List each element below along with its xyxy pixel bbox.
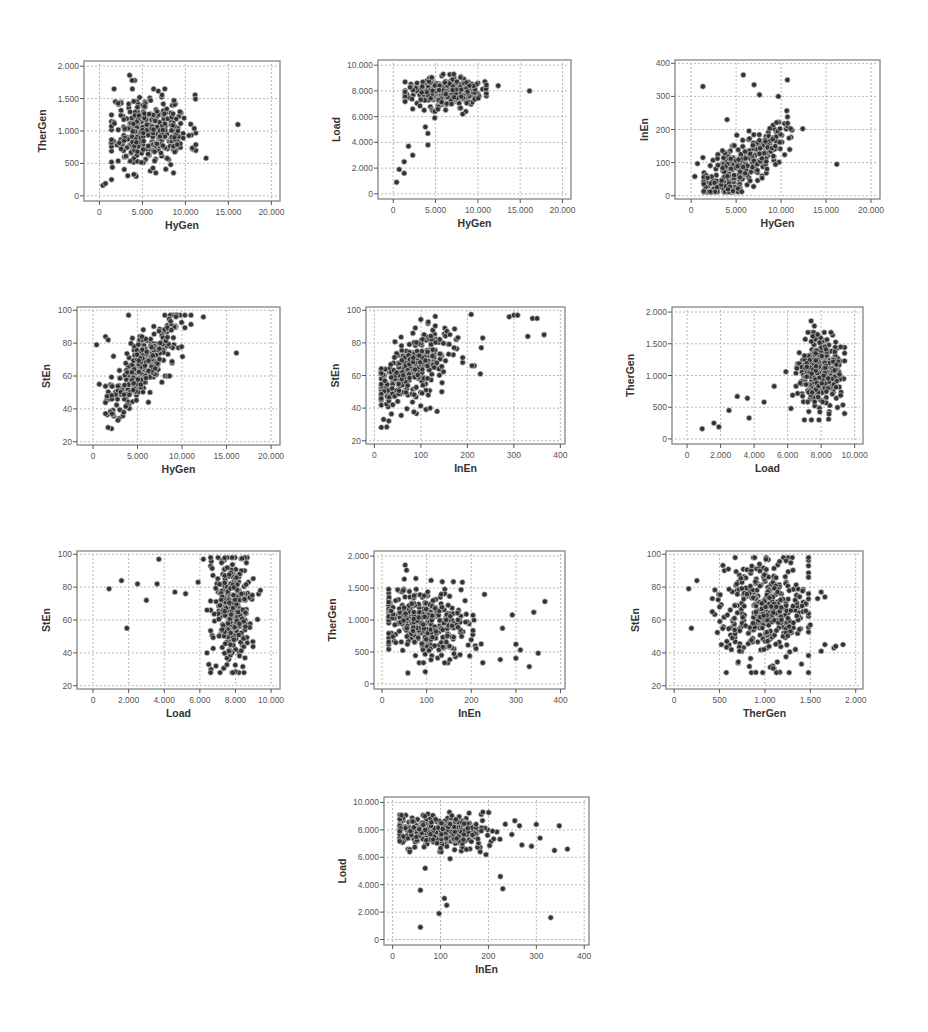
y-tick-label: 2.000	[352, 163, 374, 173]
plot-frame	[666, 551, 863, 689]
y-tick-label: 1.000	[58, 126, 80, 136]
y-tick-label: 60	[63, 371, 73, 381]
scatter-thergen-vs-hygen: 05.00010.00015.00020.00005001.0001.5002.…	[0, 0, 928, 1032]
x-axis-label: HyGen	[162, 463, 196, 475]
x-tick-label: 6.000	[189, 695, 211, 705]
y-axis: 02.0004.0006.0008.00010.000	[353, 797, 384, 944]
grid-lines	[381, 63, 568, 196]
x-axis: 05.00010.00015.00020.000	[391, 199, 576, 215]
x-tick-label: 100	[420, 695, 434, 705]
y-tick-label: 100	[647, 549, 661, 559]
data-points	[692, 72, 839, 194]
x-tick-label: 0	[672, 695, 677, 705]
x-tick-label: 20.000	[258, 207, 284, 217]
y-axis: 20406080100	[347, 305, 366, 445]
x-tick-label: 400	[577, 951, 591, 961]
x-tick-label: 200	[464, 695, 478, 705]
x-tick-label: 10.000	[258, 695, 284, 705]
x-tick-label: 20.000	[858, 205, 884, 215]
x-axis: 02.0004.0006.0008.00010.000	[685, 444, 868, 460]
x-tick-label: 8.000	[225, 695, 247, 705]
x-tick-label: 10.000	[172, 207, 198, 217]
x-tick-label: 0	[391, 205, 396, 215]
y-axis: 20406080100	[58, 549, 77, 690]
x-tick-label: 15.000	[215, 207, 241, 217]
x-tick-label: 300	[529, 951, 543, 961]
grid-lines	[387, 800, 586, 942]
y-tick-label: 100	[656, 158, 670, 168]
x-tick-label: 20.000	[258, 451, 284, 461]
x-tick-label: 10.000	[465, 205, 491, 215]
y-tick-label: 1.500	[646, 339, 668, 349]
grid-lines	[669, 554, 860, 686]
y-axis-label: StEn	[40, 364, 52, 388]
y-tick-label: 100	[347, 305, 361, 315]
y-axis-label: InEn	[638, 118, 650, 141]
scatter-sten-vs-hygen: 05.00010.00015.00020.00020406080100HyGen…	[0, 0, 928, 1032]
y-tick-label: 10.000	[353, 797, 379, 807]
y-tick-label: 4.000	[358, 880, 380, 890]
y-tick-label: 0	[74, 191, 79, 201]
y-tick-label: 60	[63, 615, 73, 625]
x-axis-label: Load	[166, 707, 191, 719]
y-tick-label: 2.000	[348, 551, 370, 561]
grid-lines	[369, 310, 562, 441]
y-tick-label: 10.000	[347, 60, 373, 70]
x-tick-label: 2.000	[845, 695, 867, 705]
x-tick-label: 400	[553, 695, 567, 705]
x-axis-label: InEn	[475, 963, 498, 975]
x-tick-label: 0	[91, 451, 96, 461]
x-tick-label: 1.000	[754, 695, 776, 705]
x-tick-label: 100	[414, 450, 428, 460]
x-tick-label: 10.000	[768, 205, 794, 215]
y-axis: 05001.0001.5002.000	[646, 307, 672, 444]
x-axis: 05.00010.00015.00020.000	[97, 201, 285, 217]
y-tick-label: 80	[63, 582, 73, 592]
scatter-sten-vs-thergen: 05001.0001.5002.00020406080100TherGenStE…	[0, 0, 928, 1032]
x-tick-label: 20.000	[550, 205, 576, 215]
y-tick-label: 1.000	[348, 615, 370, 625]
data-points	[394, 72, 532, 186]
x-axis-label: InEn	[454, 462, 477, 474]
scatter-thergen-vs-load: 02.0004.0006.0008.00010.00005001.0001.50…	[0, 0, 928, 1032]
scatter-thergen-vs-inen: 010020030040005001.0001.5002.000InEnTher…	[0, 0, 928, 1032]
y-tick-label: 0	[662, 434, 667, 444]
x-tick-label: 0	[97, 207, 102, 217]
y-tick-label: 20	[63, 681, 73, 691]
x-tick-label: 5.000	[425, 205, 447, 215]
y-axis-label: StEn	[629, 608, 641, 632]
y-tick-label: 80	[63, 338, 73, 348]
x-tick-label: 0	[372, 450, 377, 460]
x-tick-label: 100	[433, 951, 447, 961]
y-tick-label: 80	[352, 338, 362, 348]
data-points	[100, 73, 240, 188]
x-tick-label: 15.000	[214, 451, 240, 461]
y-tick-label: 20	[652, 681, 662, 691]
data-points	[386, 562, 548, 675]
plot-frame	[675, 60, 880, 199]
scatter-load-vs-inen: 010020030040002.0004.0006.0008.00010.000…	[0, 0, 928, 1032]
y-tick-label: 0	[665, 191, 670, 201]
y-axis-label: TherGen	[36, 109, 48, 152]
grid-lines	[80, 310, 277, 442]
y-axis-label: StEn	[329, 364, 341, 388]
x-tick-label: 1.500	[800, 695, 822, 705]
y-tick-label: 0	[368, 189, 373, 199]
x-tick-label: 0	[685, 450, 690, 460]
plot-frame	[366, 307, 565, 444]
x-tick-label: 8.000	[810, 450, 832, 460]
grid-lines	[377, 554, 562, 686]
x-tick-label: 15.000	[507, 205, 533, 215]
x-axis-label: InEn	[458, 707, 481, 719]
y-axis: 0100200300400	[656, 58, 675, 200]
y-axis: 20406080100	[647, 549, 666, 690]
y-tick-label: 1.000	[646, 371, 668, 381]
x-tick-label: 6.000	[777, 450, 799, 460]
y-tick-label: 4.000	[352, 137, 374, 147]
y-axis: 02.0004.0006.0008.00010.000	[347, 60, 378, 199]
x-axis-label: Load	[755, 462, 780, 474]
y-tick-label: 100	[58, 305, 72, 315]
x-axis-label: TherGen	[743, 707, 786, 719]
y-tick-label: 0	[374, 935, 379, 945]
y-tick-label: 1.500	[348, 583, 370, 593]
